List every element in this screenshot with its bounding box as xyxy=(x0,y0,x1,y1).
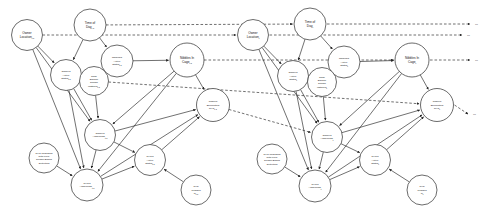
node-owner_location-t-1[interactable]: OwnerLocationt-1 xyxy=(12,20,43,51)
node-circle-owner_location[interactable] xyxy=(12,20,43,51)
edge-time_of_day-to-nibbles_active-t-1 xyxy=(100,38,107,47)
continuation-ellipsis-time_of_day: ⋯ xyxy=(475,22,478,26)
edge-nibbles_in_cage-to-owner_awareness-t-1 xyxy=(113,71,174,124)
node-owner_active-t-1[interactable]: Owner'sActiveStatust-1 xyxy=(51,60,82,91)
node-rvc_awareness-t-1[interactable]: RVC'sAwarenesst-1 xyxy=(71,169,103,201)
node-rvc_plugged-t[interactable]: RVCPluggedInt xyxy=(407,175,437,205)
node-time_of_day-t-1[interactable]: Time ofDayt-1 xyxy=(74,9,106,41)
node-rvc_plugged-t-1[interactable]: RVCPluggedInt-1 xyxy=(181,175,211,205)
node-circle-cage_sensor[interactable] xyxy=(80,67,109,96)
node-owner_active-t[interactable]: Owner'sActiveStatust xyxy=(278,61,309,92)
temporal-continuation-nibbles_enc_rvc xyxy=(455,105,469,114)
node-nibbles_enc_rvc-t[interactable]: NibblesEncountersRVCt xyxy=(421,89,454,122)
node-cage_sensor-t[interactable]: CageEscapeSensorInstalledt xyxy=(308,68,337,97)
edge-cage_sensor-to-owner_awareness-t-1 xyxy=(96,95,99,118)
node-circle-owner_location[interactable] xyxy=(238,20,269,51)
node-nibbles_in_cage-t[interactable]: Nibbles InCaget xyxy=(395,43,429,77)
node-cage_sensor-t-1[interactable]: CageEscapeSensorInstalledt-1 xyxy=(80,67,109,96)
node-circle-owner_awareness[interactable] xyxy=(85,120,116,151)
node-circle-owner_awareness[interactable] xyxy=(312,122,343,153)
edge-rvc_active-to-nibbles_enc_rvc-t xyxy=(387,117,424,150)
continuation-ellipsis-owner_location: ⋯ xyxy=(467,33,470,37)
node-owner_location-t[interactable]: OwnerLocationt xyxy=(238,20,269,51)
node-nibbles_enc_rvc-t-1[interactable]: NibblesEncountersRVCt-1 xyxy=(197,89,230,122)
node-circle-nibbles_enc_rvc[interactable] xyxy=(421,89,454,122)
node-circle-rvc_plugged[interactable] xyxy=(407,175,437,205)
node-circle-rvc_awareness[interactable] xyxy=(71,169,103,201)
node-circle-rvc_awareness[interactable] xyxy=(299,170,331,202)
continuation-marker-layer: ⋯⋯⋯⋯ xyxy=(467,22,478,116)
edge-rvc_upgraded-to-rvc_awareness-t-1 xyxy=(57,166,73,176)
edge-owner_location-to-owner_active-t xyxy=(264,46,281,64)
node-owner_awareness-t[interactable]: Owner'sAwarenesst xyxy=(312,122,343,153)
node-circle-time_of_day[interactable] xyxy=(294,8,326,40)
node-owner_awareness-t-1[interactable]: Owner'sAwarenesst-1 xyxy=(85,120,116,151)
edge-owner_location-to-owner_active-t-1 xyxy=(38,46,54,63)
edge-rvc_plugged-to-rvc_active-t-1 xyxy=(164,169,183,182)
edge-owner_awareness-to-rvc_awareness-t xyxy=(319,152,323,169)
continuation-ellipsis-nibbles_in_cage: ⋯ xyxy=(475,58,478,62)
continuation-ellipsis-nibbles_enc_rvc: ⋯ xyxy=(473,112,476,116)
node-rvc_upgraded-t-1[interactable]: RVC Upgradedwith FloorSensor-BasedDetect… xyxy=(29,143,59,173)
edge-nibbles_in_cage-to-nibbles_enc_rvc-t-1 xyxy=(196,75,205,90)
edge-rvc_plugged-to-rvc_active-t xyxy=(389,169,409,182)
edge-owner_awareness-to-nibbles_enc_rvc-t xyxy=(342,110,420,133)
node-rvc_awareness-t[interactable]: RVC'sAwarenesst xyxy=(299,170,331,202)
node-circle-owner_active[interactable] xyxy=(51,60,82,91)
edge-rvc_active-to-nibbles_enc_rvc-t-1 xyxy=(162,117,200,150)
node-time_of_day-t[interactable]: Time ofDayt xyxy=(294,8,326,40)
node-circle-rvc_active[interactable] xyxy=(135,145,166,176)
node-nibbles_in_cage-t-1[interactable]: Nibbles InCaget-1 xyxy=(170,43,204,77)
edge-nibbles_in_cage-to-nibbles_enc_rvc-t xyxy=(420,75,428,89)
edge-cage_sensor-to-owner_awareness-t xyxy=(323,96,325,120)
node-rvc_upgraded-t[interactable]: RVC Upgradedwith FloorSensor-BasedDetect… xyxy=(257,144,287,174)
node-circle-rvc_upgraded[interactable] xyxy=(257,144,287,174)
edge-owner_active-to-rvc_awareness-t xyxy=(296,91,312,169)
node-layer: OwnerLocationt-1Time ofDayt-1Nibbles'sAc… xyxy=(12,8,454,205)
edge-owner_awareness-to-nibbles_enc_rvc-t-1 xyxy=(115,110,196,131)
temporal-edge-nibbles_enc_rvc-to-owner_awareness xyxy=(229,109,311,132)
node-circle-rvc_active[interactable] xyxy=(360,145,391,176)
edge-nibbles_active-to-nibbles_in_cage-t xyxy=(360,61,394,62)
edge-rvc_upgraded-to-rvc_awareness-t xyxy=(285,167,301,177)
dbn-diagram-canvas: OwnerLocationt-1Time ofDayt-1Nibbles'sAc… xyxy=(0,0,480,209)
node-circle-rvc_upgraded[interactable] xyxy=(29,143,59,173)
node-rvc_active-t[interactable]: RVC'sActiveStatust xyxy=(360,145,391,176)
edge-nibbles_active-to-nibbles_in_cage-t-1 xyxy=(133,60,169,61)
edge-time_of_day-to-owner_active-t xyxy=(298,39,305,60)
node-circle-time_of_day[interactable] xyxy=(74,9,106,41)
dbn-svg-root: OwnerLocationt-1Time ofDayt-1Nibbles'sAc… xyxy=(0,0,480,209)
edge-time_of_day-to-owner_active-t-1 xyxy=(73,39,83,59)
temporal-edge-cage_sensor-to-nibbles_enc_rvc xyxy=(108,82,419,104)
node-circle-rvc_plugged[interactable] xyxy=(181,175,211,205)
node-rvc_active-t-1[interactable]: RVC'sActiveStatust-1 xyxy=(135,145,166,176)
node-circle-nibbles_enc_rvc[interactable] xyxy=(197,89,230,122)
node-circle-nibbles_in_cage[interactable] xyxy=(395,43,429,77)
node-circle-cage_sensor[interactable] xyxy=(308,68,337,97)
node-circle-owner_active[interactable] xyxy=(278,61,309,92)
edge-owner_awareness-to-rvc_awareness-t-1 xyxy=(91,150,96,168)
edge-time_of_day-to-nibbles_active-t xyxy=(321,36,333,49)
node-circle-nibbles_in_cage[interactable] xyxy=(170,43,204,77)
